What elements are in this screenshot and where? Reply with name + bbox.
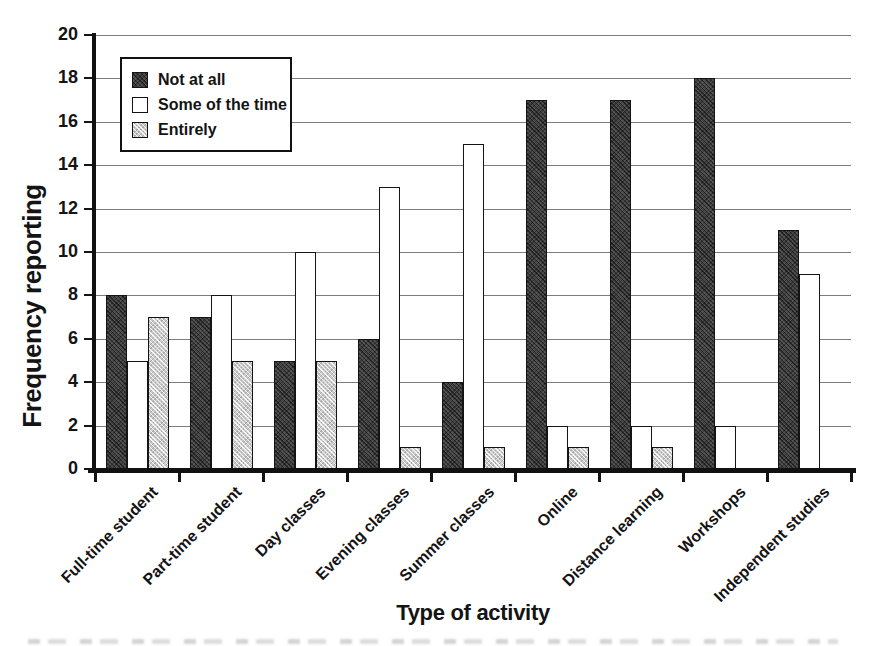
bar-some-of-the-time-distance-learning bbox=[631, 426, 652, 469]
legend-swatch-some-of-the-time bbox=[132, 97, 148, 113]
y-tick-label-12: 12 bbox=[58, 197, 78, 218]
legend-label-not-at-all: Not at all bbox=[158, 71, 226, 89]
bar-some-of-the-time-full-time-student bbox=[127, 361, 148, 470]
bar-not-at-all-independent-studies bbox=[778, 230, 799, 469]
x-category-label-workshops: Workshops bbox=[676, 483, 750, 557]
x-axis-title: Type of activity bbox=[95, 600, 851, 626]
bar-some-of-the-time-evening-classes bbox=[379, 187, 400, 469]
y-tick-label-20: 20 bbox=[58, 24, 78, 45]
bar-some-of-the-time-workshops bbox=[715, 426, 736, 469]
y-tick-label-4: 4 bbox=[68, 371, 78, 392]
bar-some-of-the-time-online bbox=[547, 426, 568, 469]
legend-label-some-of-the-time: Some of the time bbox=[158, 96, 287, 114]
cropped-caption-remnant bbox=[28, 639, 838, 644]
bar-chart-figure: Not at all Some of the time Entirely Fre… bbox=[0, 0, 872, 646]
y-tick-label-8: 8 bbox=[68, 284, 78, 305]
bar-some-of-the-time-part-time-student bbox=[211, 295, 232, 469]
legend-swatch-entirely bbox=[132, 122, 148, 138]
x-tick-2 bbox=[262, 473, 265, 482]
x-tick-6 bbox=[598, 473, 601, 482]
y-tick-0 bbox=[84, 468, 93, 470]
x-tick-9 bbox=[850, 473, 853, 482]
legend-label-entirely: Entirely bbox=[158, 121, 217, 139]
x-tick-4 bbox=[430, 473, 433, 482]
x-tick-1 bbox=[178, 473, 181, 482]
bar-entirely-summer-classes bbox=[484, 447, 505, 469]
legend-item-entirely: Entirely bbox=[132, 117, 284, 142]
y-tick-2 bbox=[84, 425, 93, 427]
y-tick-label-18: 18 bbox=[58, 67, 78, 88]
y-tick-4 bbox=[84, 381, 93, 383]
bar-entirely-full-time-student bbox=[148, 317, 169, 469]
bar-entirely-part-time-student bbox=[232, 361, 253, 470]
bar-not-at-all-workshops bbox=[694, 78, 715, 469]
x-tick-7 bbox=[682, 473, 685, 482]
y-tick-16 bbox=[84, 121, 93, 123]
y-tick-label-16: 16 bbox=[58, 111, 78, 132]
x-category-label-day-classes: Day classes bbox=[252, 483, 330, 561]
bar-not-at-all-evening-classes bbox=[358, 339, 379, 469]
bar-some-of-the-time-day-classes bbox=[295, 252, 316, 469]
bar-some-of-the-time-summer-classes bbox=[463, 144, 484, 470]
x-tick-5 bbox=[514, 473, 517, 482]
legend: Not at all Some of the time Entirely bbox=[120, 57, 292, 152]
bar-entirely-day-classes bbox=[316, 361, 337, 470]
x-category-label-summer-classes: Summer classes bbox=[396, 483, 498, 585]
x-axis-line bbox=[88, 468, 856, 473]
plot-area: Not at all Some of the time Entirely bbox=[95, 35, 851, 469]
y-tick-label-2: 2 bbox=[68, 414, 78, 435]
legend-item-some-of-the-time: Some of the time bbox=[132, 92, 284, 117]
bar-entirely-online bbox=[568, 447, 589, 469]
bar-entirely-evening-classes bbox=[400, 447, 421, 469]
bar-entirely-distance-learning bbox=[652, 447, 673, 469]
y-tick-14 bbox=[84, 164, 93, 166]
bar-not-at-all-part-time-student bbox=[190, 317, 211, 469]
bar-not-at-all-summer-classes bbox=[442, 382, 463, 469]
y-tick-label-10: 10 bbox=[58, 241, 78, 262]
bar-not-at-all-day-classes bbox=[274, 361, 295, 470]
bar-some-of-the-time-independent-studies bbox=[799, 274, 820, 469]
y-axis-line bbox=[92, 33, 96, 473]
y-tick-10 bbox=[84, 251, 93, 253]
legend-item-not-at-all: Not at all bbox=[132, 67, 284, 92]
y-tick-18 bbox=[84, 77, 93, 79]
bar-not-at-all-full-time-student bbox=[106, 295, 127, 469]
y-tick-label-0: 0 bbox=[68, 458, 78, 479]
y-axis-title-text: Frequency reporting bbox=[17, 184, 48, 427]
x-tick-8 bbox=[766, 473, 769, 482]
y-tick-20 bbox=[84, 34, 93, 36]
y-tick-8 bbox=[84, 294, 93, 296]
bar-not-at-all-online bbox=[526, 100, 547, 469]
y-tick-label-6: 6 bbox=[68, 328, 78, 349]
y-tick-12 bbox=[84, 208, 93, 210]
x-category-label-online: Online bbox=[534, 483, 582, 531]
x-tick-0 bbox=[94, 473, 97, 482]
x-tick-3 bbox=[346, 473, 349, 482]
y-tick-6 bbox=[84, 338, 93, 340]
bar-not-at-all-distance-learning bbox=[610, 100, 631, 469]
y-tick-label-14: 14 bbox=[58, 154, 78, 175]
legend-swatch-not-at-all bbox=[132, 72, 148, 88]
